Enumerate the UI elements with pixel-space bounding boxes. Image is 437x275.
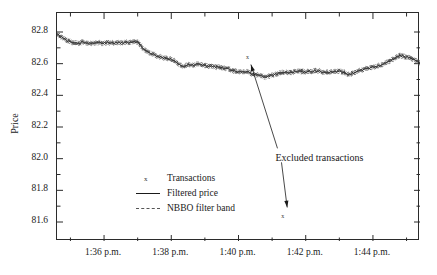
solid-line-icon	[136, 193, 160, 194]
legend-key-dashed-line	[135, 202, 161, 214]
y-tick-label: 82.0	[0, 153, 48, 163]
x-tick-label: 1:36 p.m.	[68, 248, 138, 258]
plot-svg	[57, 13, 420, 241]
y-tick-label: 82.6	[0, 58, 48, 68]
x-marker-icon: x	[144, 173, 148, 185]
y-tick-marks	[57, 32, 420, 222]
x-tick-marks	[70, 13, 406, 241]
filtered-price-line	[57, 34, 420, 78]
legend-label-transactions: Transactions	[167, 173, 215, 183]
y-tick-label: 81.8	[0, 184, 48, 194]
chart-figure: Price 82.882.682.482.282.081.881.6 1:36 …	[0, 0, 437, 275]
legend-item-filtered-price: Filtered price	[135, 185, 235, 200]
y-tick-label: 82.2	[0, 121, 48, 131]
legend-key-x-marker: x	[135, 172, 161, 184]
excluded-transactions-annotation: Excluded transactions	[275, 152, 363, 163]
outlier-marker-upper: x	[246, 54, 249, 60]
legend-item-transactions: x Transactions	[135, 170, 235, 185]
legend-label-filtered-price: Filtered price	[167, 188, 218, 198]
annotation-arrows	[251, 65, 288, 208]
chart-legend: x Transactions Filtered price NBBO filte…	[135, 170, 235, 215]
outlier-marker-lower: x	[281, 213, 284, 219]
legend-label-nbbo-band: NBBO filter band	[167, 203, 235, 213]
x-tick-label: 1:42 p.m.	[270, 248, 340, 258]
legend-item-nbbo-band: NBBO filter band	[135, 200, 235, 215]
y-tick-label: 82.8	[0, 26, 48, 36]
x-tick-label: 1:38 p.m.	[135, 248, 205, 258]
x-tick-label: 1:40 p.m.	[203, 248, 273, 258]
y-tick-label: 82.4	[0, 89, 48, 99]
legend-key-solid-line	[135, 187, 161, 199]
x-tick-label: 1:44 p.m.	[337, 248, 407, 258]
plot-area: x x Excluded transactions x Transactions…	[56, 12, 419, 240]
dashed-line-icon	[136, 208, 160, 209]
y-tick-label: 81.6	[0, 216, 48, 226]
